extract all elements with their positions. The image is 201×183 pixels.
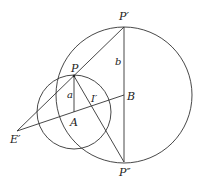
geometry-diagram: P′ P″ P A B E′ I′ a b bbox=[0, 0, 201, 183]
label-e-prime: E′ bbox=[9, 133, 21, 146]
label-p: P bbox=[70, 62, 79, 75]
label-p-double-prime: P″ bbox=[118, 166, 131, 179]
label-a-length: a bbox=[67, 89, 73, 100]
label-i-prime: I′ bbox=[90, 93, 98, 104]
point-p bbox=[73, 75, 76, 78]
label-b-length: b bbox=[115, 56, 121, 67]
label-a: A bbox=[69, 116, 78, 129]
label-p-prime: P′ bbox=[118, 10, 129, 23]
label-b: B bbox=[126, 90, 135, 103]
segment-p-p-double-prime bbox=[74, 76, 124, 162]
